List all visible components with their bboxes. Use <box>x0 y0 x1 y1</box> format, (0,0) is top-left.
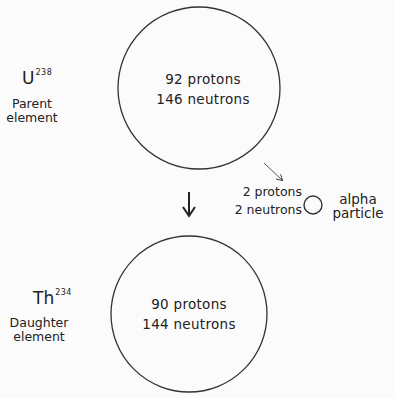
daughter-neutrons: 144 neutrons <box>135 318 243 332</box>
daughter-symbol: Th234 <box>33 290 72 307</box>
alpha-label-line2: particle <box>325 207 391 221</box>
parent-nucleus-circle <box>118 7 280 169</box>
parent-mass-number: 238 <box>35 68 52 77</box>
decay-arrow <box>183 192 195 216</box>
parent-label-line1: Parent <box>4 97 60 111</box>
alpha-particle-circle <box>304 196 322 214</box>
parent-symbol-letter: U <box>22 68 34 88</box>
alpha-neutrons: 2 neutrons <box>226 201 302 219</box>
daughter-label-line2: element <box>4 330 74 344</box>
parent-symbol: U238 <box>22 70 52 87</box>
daughter-protons: 90 protons <box>135 298 243 312</box>
daughter-nucleus-circle <box>111 236 267 392</box>
parent-neutrons: 146 neutrons <box>148 93 258 107</box>
daughter-label: Daughter element <box>4 316 74 344</box>
alpha-composition: 2 protons 2 neutrons <box>226 183 302 219</box>
alpha-label: alpha particle <box>325 193 391 220</box>
daughter-mass-number: 234 <box>55 288 72 297</box>
emission-arrow <box>264 163 282 180</box>
alpha-protons: 2 protons <box>226 183 302 201</box>
daughter-symbol-letter: Th <box>33 288 54 308</box>
parent-protons: 92 protons <box>148 73 258 87</box>
daughter-label-line1: Daughter <box>4 316 74 330</box>
parent-label-line2: element <box>4 111 60 125</box>
parent-label: Parent element <box>4 97 60 125</box>
